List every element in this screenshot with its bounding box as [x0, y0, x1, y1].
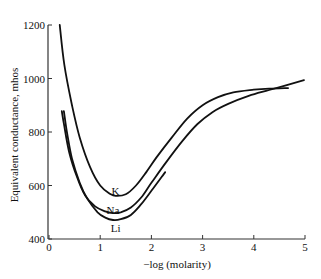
- y-tick-label: 800: [29, 126, 46, 138]
- y-axis-label: Equivalent conductance, mhos: [8, 68, 20, 203]
- x-tick-label: 5: [302, 241, 308, 253]
- curve-label-li: Li: [111, 222, 121, 234]
- curve-label-k: K: [112, 185, 120, 197]
- y-tick-label: 1200: [23, 19, 46, 31]
- x-tick-label: 4: [251, 241, 257, 253]
- x-axis-label: −log (molarity): [143, 258, 211, 271]
- curve-k: [60, 25, 288, 196]
- curves: [60, 25, 304, 220]
- y-tick-label: 1000: [23, 73, 46, 85]
- curve-na: [62, 80, 304, 213]
- y-tick-label: 600: [29, 180, 46, 192]
- x-tick-label: 0: [46, 241, 52, 253]
- x-tick-label: 3: [200, 241, 206, 253]
- x-tick-label: 2: [149, 241, 155, 253]
- curve-label-na: Na: [107, 204, 120, 216]
- conductance-chart: 01234540060080010001200 −log (molarity)E…: [0, 0, 321, 279]
- y-tick-label: 400: [29, 233, 46, 245]
- x-tick-label: 1: [97, 241, 103, 253]
